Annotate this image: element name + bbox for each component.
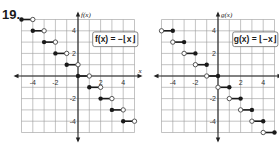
closed-dot	[98, 96, 102, 100]
step-segment	[19, 17, 35, 21]
open-dot	[31, 17, 35, 21]
step-segment	[159, 29, 175, 33]
open-dot	[110, 96, 114, 100]
plot-f: -4-22442-2-4f(x)xf(x) = −⌊x⌋	[14, 11, 143, 143]
x-tick-label: 4	[261, 79, 265, 86]
closed-dot	[182, 40, 186, 44]
y-tick-label: -4	[70, 118, 76, 125]
closed-dot	[42, 40, 46, 44]
open-dot	[132, 119, 136, 123]
y-tick-label: 2	[72, 50, 76, 57]
step-segment	[98, 96, 114, 100]
x-tick-label: -4	[30, 79, 36, 86]
closed-dot	[121, 119, 125, 123]
step-segment	[42, 40, 58, 44]
arrow-up-icon	[216, 12, 220, 17]
y-tick-label: 2	[212, 50, 216, 57]
y-axis-label: g(x)	[221, 11, 233, 19]
closed-dot	[31, 29, 35, 33]
open-dot	[216, 85, 220, 89]
equation-label: g(x) = ⌊−x⌋	[234, 34, 277, 44]
step-segment	[216, 85, 232, 89]
x-axis-label: x	[138, 67, 143, 75]
open-dot	[227, 96, 231, 100]
closed-dot	[87, 85, 91, 89]
open-dot	[193, 62, 197, 66]
closed-dot	[171, 29, 175, 33]
open-dot	[121, 108, 125, 112]
step-segment	[250, 119, 266, 123]
plot-g: -4-22442-2-4g(x)g(x) = ⌊−x⌋	[154, 11, 280, 143]
y-tick-label: 4	[212, 27, 216, 34]
y-tick-label: -2	[210, 95, 216, 102]
open-dot	[53, 40, 57, 44]
closed-dot	[227, 85, 231, 89]
x-tick-label: 4	[121, 79, 125, 86]
closed-dot	[205, 62, 209, 66]
closed-dot	[53, 51, 57, 55]
closed-dot	[19, 17, 23, 21]
open-dot	[261, 130, 265, 134]
arrow-left-icon	[154, 74, 159, 78]
step-segment	[31, 29, 47, 33]
step-segment	[182, 51, 198, 55]
open-dot	[238, 108, 242, 112]
x-tick-label: 2	[239, 79, 243, 86]
step-segment	[193, 62, 209, 66]
closed-dot	[76, 74, 80, 78]
open-dot	[159, 29, 163, 33]
x-tick-label: -4	[170, 79, 176, 86]
closed-dot	[261, 119, 265, 123]
step-segment	[76, 74, 92, 78]
arrow-up-icon	[76, 12, 80, 17]
step-segment	[65, 62, 81, 66]
equation-label: f(x) = −⌊x⌋	[95, 34, 136, 44]
step-segment	[227, 96, 243, 100]
open-dot	[98, 85, 102, 89]
y-tick-label: -4	[210, 118, 216, 125]
open-dot	[65, 51, 69, 55]
step-segment	[121, 119, 137, 123]
open-dot	[76, 62, 80, 66]
graphs-canvas: -4-22442-2-4f(x)xf(x) = −⌊x⌋ -4-22442-2-…	[0, 0, 279, 146]
step-segment	[171, 40, 187, 44]
x-tick-label: -2	[192, 79, 198, 86]
y-tick-label: -2	[70, 95, 76, 102]
step-segment	[87, 85, 103, 89]
step-segment	[261, 130, 277, 134]
open-dot	[87, 74, 91, 78]
open-dot	[205, 74, 209, 78]
arrow-down-icon	[216, 138, 220, 143]
open-dot	[171, 40, 175, 44]
arrow-down-icon	[76, 138, 80, 143]
closed-dot	[65, 62, 69, 66]
open-dot	[182, 51, 186, 55]
open-dot	[42, 29, 46, 33]
x-tick-label: -2	[52, 79, 58, 86]
arrow-left-icon	[14, 74, 19, 78]
closed-dot	[110, 108, 114, 112]
closed-dot	[216, 74, 220, 78]
closed-dot	[238, 96, 242, 100]
step-segment	[238, 108, 254, 112]
step-segment	[205, 74, 221, 78]
y-tick-label: 4	[72, 27, 76, 34]
closed-dot	[272, 130, 276, 134]
open-dot	[250, 119, 254, 123]
step-segment	[53, 51, 69, 55]
step-segment	[110, 108, 126, 112]
arrow-right-icon	[278, 74, 280, 78]
closed-dot	[250, 108, 254, 112]
y-axis-label: f(x)	[81, 11, 91, 19]
closed-dot	[193, 51, 197, 55]
